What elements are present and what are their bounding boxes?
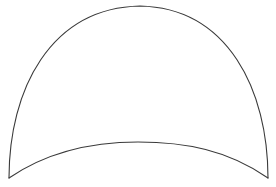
outer-arch-outline <box>9 6 268 178</box>
inner-arc-outline <box>9 142 268 178</box>
dome-shape-figure <box>0 0 276 187</box>
